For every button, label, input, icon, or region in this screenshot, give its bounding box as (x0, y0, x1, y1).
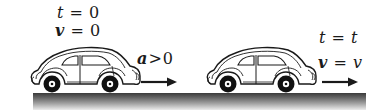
final-time-label: t = t (319, 30, 357, 46)
initial-velocity-label: v = 0 (55, 23, 100, 39)
car-final (207, 48, 316, 93)
initial-time-label: t = 0 (57, 5, 99, 21)
equals-sign: = (331, 28, 346, 47)
car-initial (31, 48, 140, 93)
equals-sign: = (332, 53, 347, 72)
velocity-variable: v (55, 21, 64, 40)
acceleration-label: a>0 (137, 51, 173, 67)
greater-than-sign: > (147, 49, 162, 68)
right-arrow-icon (141, 78, 177, 87)
final-velocity-label: v = v (318, 55, 362, 71)
time-variable: t (57, 3, 63, 22)
velocity-value: v (353, 53, 362, 72)
velocity-variable: v (318, 53, 327, 72)
kinematics-diagram: t = 0 v = 0 a>0 t = t v = v (0, 0, 387, 112)
acceleration-variable: a (137, 49, 147, 68)
acceleration-value: 0 (163, 49, 173, 68)
velocity-value: 0 (90, 21, 100, 40)
equals-sign: = (69, 21, 84, 40)
time-value: t (351, 28, 357, 47)
time-variable: t (319, 28, 325, 47)
right-arrow-icon (322, 78, 358, 87)
equals-sign: = (69, 3, 84, 22)
time-value: 0 (89, 3, 99, 22)
